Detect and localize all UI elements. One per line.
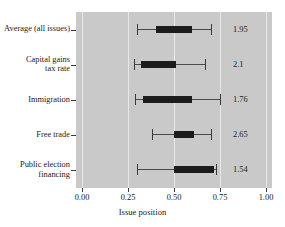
- x-axis-tick: [174, 188, 175, 192]
- y-axis-label: Average (all issues): [0, 24, 70, 34]
- whisker-cap-low: [135, 94, 136, 105]
- whisker-cap-low: [152, 129, 153, 140]
- y-axis-tick: [71, 65, 76, 66]
- whisker-cap-high: [211, 24, 212, 35]
- y-axis-tick: [71, 30, 76, 31]
- box-bar: [156, 26, 193, 33]
- box-bar: [141, 61, 176, 68]
- whisker-cap-low: [137, 164, 138, 175]
- y-axis-tick: [71, 100, 76, 101]
- x-axis-tick: [82, 188, 83, 192]
- y-axis-label: Capital gainstax rate: [0, 55, 70, 74]
- y-axis-label-line: Immigration: [0, 95, 70, 105]
- value-label: 2.65: [233, 130, 248, 139]
- whisker-cap-high: [211, 129, 212, 140]
- box-bar: [174, 131, 194, 138]
- y-axis-label-line: Capital gains: [0, 55, 70, 65]
- y-axis-label-line: Free trade: [0, 130, 70, 140]
- value-label: 1.76: [233, 95, 248, 104]
- x-axis-tick-label: 1.00: [246, 193, 285, 202]
- x-axis-tick-label: 0.50: [154, 193, 194, 202]
- y-axis-label-line: Public election: [0, 160, 70, 170]
- x-axis-tick: [220, 188, 221, 192]
- box-plot-chart: Average (all issues)1.95Capital gainstax…: [0, 0, 285, 227]
- y-axis-label: Free trade: [0, 130, 70, 140]
- value-label: 1.95: [233, 25, 248, 34]
- y-axis-label-line: tax rate: [0, 64, 70, 74]
- x-axis-tick: [266, 188, 267, 192]
- x-axis-tick-label: 0.25: [108, 193, 148, 202]
- y-axis-label: Immigration: [0, 95, 70, 105]
- x-axis-tick: [128, 188, 129, 192]
- y-axis-label: Public electionfinancing: [0, 160, 70, 179]
- value-label: 2.1: [233, 60, 243, 69]
- whisker-cap-high: [205, 59, 206, 70]
- y-axis-label-line: Average (all issues): [0, 24, 70, 34]
- y-axis-tick: [71, 135, 76, 136]
- value-label: 1.54: [233, 165, 248, 174]
- box-bar: [143, 96, 193, 103]
- box-bar: [174, 166, 214, 173]
- whisker-cap-low: [134, 59, 135, 70]
- whisker-cap-high: [220, 94, 221, 105]
- whisker-cap-low: [137, 24, 138, 35]
- x-axis-tick-label: 0.75: [200, 193, 240, 202]
- x-axis-title: Issue position: [0, 207, 285, 217]
- whisker-cap-high: [216, 164, 217, 175]
- x-axis-tick-label: 0.00: [62, 193, 102, 202]
- y-axis-tick: [71, 170, 76, 171]
- y-axis-label-line: financing: [0, 170, 70, 180]
